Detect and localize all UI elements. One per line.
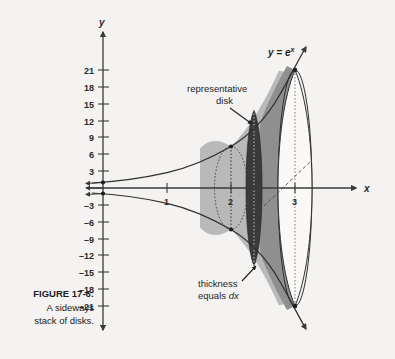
y-tick-label-12: 12 (84, 117, 94, 127)
y-tick-label-neg3: –3 (84, 201, 94, 211)
y-axis-label: y (98, 17, 105, 28)
x-tick-label-3: 3 (292, 197, 297, 207)
point-curve-x2-lower (229, 227, 233, 231)
thickness-label-plain: equals (198, 290, 229, 301)
point-origin-lower (101, 191, 105, 195)
figure-caption-line1: A sideways (46, 302, 94, 313)
y-tick-label-9: 9 (89, 133, 94, 143)
figure-container: 1 2 3 3 6 9 12 15 18 21 (0, 0, 395, 359)
x-tick-label-2: 2 (228, 197, 233, 207)
thickness-label-line2: equals dx (198, 290, 240, 301)
curve-equation-base: y = e (267, 47, 291, 58)
x-axis-label: x (363, 183, 370, 194)
y-tick-label-neg9: –9 (84, 235, 94, 245)
y-tick-label-15: 15 (84, 100, 94, 110)
figure-caption: FIGURE 17-6: A sideways stack of disks. (2, 287, 94, 328)
y-tick-label-3: 3 (89, 167, 94, 177)
thickness-label-italic: dx (229, 290, 240, 301)
point-curve-x3-lower (293, 304, 298, 309)
point-curve-x3-upper (293, 68, 298, 73)
y-tick-label-neg15: –15 (79, 268, 94, 278)
x-tick-label-1: 1 (164, 197, 169, 207)
figure-caption-number: FIGURE 17-6: (33, 288, 94, 299)
y-tick-label-21: 21 (84, 66, 94, 76)
representative-disk-label-line1: representative (187, 83, 247, 94)
y-tick-label-neg6: –6 (84, 218, 94, 228)
point-origin-upper (101, 180, 105, 184)
y-tick-label-6: 6 (89, 150, 94, 160)
y-tick-label-neg12: –12 (79, 251, 94, 261)
representative-disk-label-line2: disk (216, 95, 233, 106)
y-tick-label-18: 18 (84, 83, 94, 93)
thickness-label-line1: thickness (198, 278, 238, 289)
point-curve-x2-upper (229, 144, 233, 148)
figure-caption-line2: stack of disks. (34, 315, 94, 326)
